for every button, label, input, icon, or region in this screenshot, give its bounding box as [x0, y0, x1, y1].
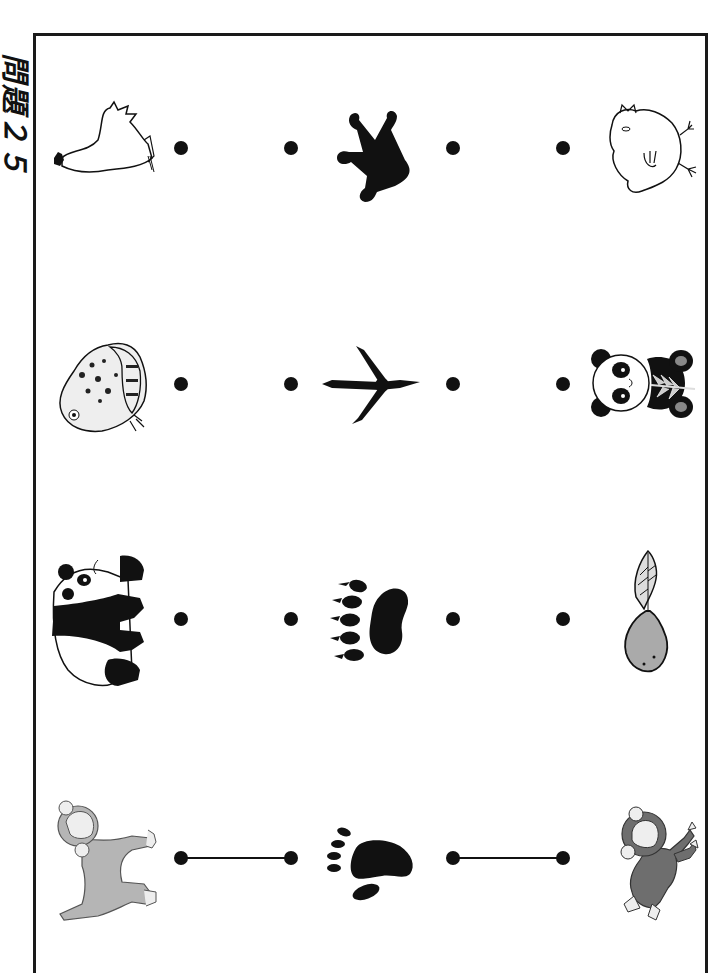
monkey-icon: [52, 796, 162, 926]
chick-icon: [592, 95, 702, 205]
connect-dot-adult[interactable]: [174, 141, 188, 155]
bird-footprint-icon: [318, 344, 430, 426]
connect-dot-baby[interactable]: [556, 377, 570, 391]
connect-dot-footprint-right[interactable]: [446, 612, 460, 626]
worksheet-title: 問題２５: [3, 10, 33, 220]
connect-dot-footprint-left[interactable]: [284, 612, 298, 626]
connect-dot-adult[interactable]: [174, 612, 188, 626]
drawn-connection-line-left: [181, 857, 291, 859]
connect-dot-baby[interactable]: [556, 851, 570, 865]
connect-dot-baby[interactable]: [556, 141, 570, 155]
panda-icon: [48, 552, 148, 692]
connect-dot-adult[interactable]: [174, 377, 188, 391]
tadpole-icon: [618, 549, 678, 679]
monkey-footprint-icon: [322, 826, 422, 906]
connect-dot-footprint-right[interactable]: [446, 141, 460, 155]
connect-dot-footprint-right[interactable]: [446, 377, 460, 391]
drawn-connection-line-right: [453, 857, 563, 859]
bear-paw-print-icon: [328, 578, 418, 663]
panda-cub-icon: [585, 345, 700, 425]
connect-dot-baby[interactable]: [556, 612, 570, 626]
frog-footprint-icon: [325, 100, 420, 205]
title-text: 問題２５: [0, 53, 39, 177]
connect-dot-footprint-left[interactable]: [284, 851, 298, 865]
connect-dot-footprint-left[interactable]: [284, 377, 298, 391]
frog-icon: [52, 335, 152, 435]
connect-dot-footprint-left[interactable]: [284, 141, 298, 155]
rooster-icon: [48, 100, 158, 190]
baby-monkey-icon: [604, 800, 699, 925]
